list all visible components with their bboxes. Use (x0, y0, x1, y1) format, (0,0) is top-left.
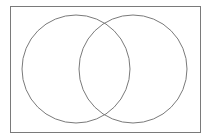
set-a-circle (22, 15, 130, 123)
set-b-circle (79, 15, 187, 123)
venn-diagram (0, 0, 210, 140)
universe-frame (11, 7, 201, 133)
